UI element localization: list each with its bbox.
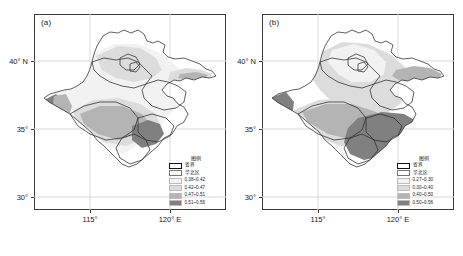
legend-swatch-class-1 bbox=[169, 178, 182, 184]
legend-label-class-2: 0.30~0.40 bbox=[413, 186, 434, 191]
legend-swatch-class-2 bbox=[169, 185, 182, 191]
panel-a-ytick-40 bbox=[31, 61, 34, 62]
panel-a-ylabel-40: 40° N bbox=[9, 57, 28, 66]
legend-swatch-class-4 bbox=[397, 200, 410, 206]
panel-b-ylabel-30: 30° bbox=[245, 193, 256, 202]
panel-a-ylabel-35: 35° bbox=[17, 125, 28, 134]
panel-a-xlabel-120: 120° E bbox=[159, 215, 182, 224]
legend-label-province-border: 省界 bbox=[413, 163, 423, 168]
panel-a-xtick-115 bbox=[90, 210, 91, 213]
legend-label-class-1: 0.27~0.30 bbox=[413, 178, 434, 183]
legend-item: 0.42~0.47 bbox=[169, 185, 223, 192]
legend-swatch-class-1 bbox=[397, 178, 410, 184]
panel-b-ylabel-35: 35° bbox=[245, 125, 256, 134]
panel-b-ytick-30 bbox=[259, 197, 262, 198]
legend-item: 0.51~0.56 bbox=[169, 200, 223, 207]
legend-label-class-1: 0.38~0.42 bbox=[185, 178, 206, 183]
legend-item: 0.40~0.50 bbox=[397, 192, 451, 199]
panel-a-ytick-35 bbox=[31, 129, 34, 130]
legend-label-class-2: 0.42~0.47 bbox=[185, 186, 206, 191]
panel-b-label: (b) bbox=[269, 18, 279, 27]
panel-b: (b) 40° N 35° 30° 115° 120° E 图例 省界 华北区 … bbox=[262, 14, 454, 210]
legend-item: 省界 bbox=[397, 162, 451, 169]
legend-item: 0.27~0.30 bbox=[397, 177, 451, 184]
panel-b-legend-title: 图例 bbox=[397, 156, 451, 161]
panel-a-legend-title: 图例 bbox=[169, 156, 223, 161]
legend-label-province-border: 省界 bbox=[185, 163, 195, 168]
legend-swatch-province-border bbox=[397, 163, 410, 169]
legend-swatch-class-3 bbox=[397, 193, 410, 199]
panel-a-label: (a) bbox=[41, 18, 51, 27]
legend-item: 0.47~0.51 bbox=[169, 192, 223, 199]
panel-b-ytick-35 bbox=[259, 129, 262, 130]
panel-a-legend: 图例 省界 华北区 0.38~0.42 0.42~0.47 0.47~0.51 bbox=[169, 156, 223, 207]
panel-b-xlabel-120: 120° E bbox=[387, 215, 410, 224]
panel-a-xtick-120 bbox=[170, 210, 171, 213]
legend-item: 0.50~0.56 bbox=[397, 200, 451, 207]
figure-two-panel-maps: (a) 40° N 35° 30° 115° 120° E 图例 省界 华北区 bbox=[0, 0, 463, 256]
panel-a-ylabel-30: 30° bbox=[17, 193, 28, 202]
legend-item: 省界 bbox=[169, 162, 223, 169]
panel-b-ylabel-40: 40° N bbox=[237, 57, 256, 66]
panel-b-legend: 图例 省界 华北区 0.27~0.30 0.30~0.40 0.40~0.50 bbox=[397, 156, 451, 207]
legend-label-region: 华北区 bbox=[413, 171, 428, 176]
legend-swatch-class-3 bbox=[169, 193, 182, 199]
legend-label-class-4: 0.50~0.56 bbox=[413, 201, 434, 206]
legend-item: 华北区 bbox=[397, 170, 451, 177]
panel-a-ytick-30 bbox=[31, 197, 34, 198]
legend-label-class-4: 0.51~0.56 bbox=[185, 201, 206, 206]
panel-a: (a) 40° N 35° 30° 115° 120° E 图例 省界 华北区 bbox=[34, 14, 226, 210]
legend-item: 华北区 bbox=[169, 170, 223, 177]
legend-swatch-region bbox=[169, 170, 182, 176]
panel-b-xtick-115 bbox=[318, 210, 319, 213]
panel-a-xlabel-115: 115° bbox=[83, 215, 98, 224]
panel-b-ytick-40 bbox=[259, 61, 262, 62]
legend-swatch-class-2 bbox=[397, 185, 410, 191]
legend-label-region: 华北区 bbox=[185, 171, 200, 176]
legend-item: 0.38~0.42 bbox=[169, 177, 223, 184]
legend-swatch-province-border bbox=[169, 163, 182, 169]
panel-b-xlabel-115: 115° bbox=[311, 215, 326, 224]
legend-item: 0.30~0.40 bbox=[397, 185, 451, 192]
legend-label-class-3: 0.47~0.51 bbox=[185, 193, 206, 198]
legend-swatch-region bbox=[397, 170, 410, 176]
panel-b-xtick-120 bbox=[398, 210, 399, 213]
legend-swatch-class-4 bbox=[169, 200, 182, 206]
legend-label-class-3: 0.40~0.50 bbox=[413, 193, 434, 198]
